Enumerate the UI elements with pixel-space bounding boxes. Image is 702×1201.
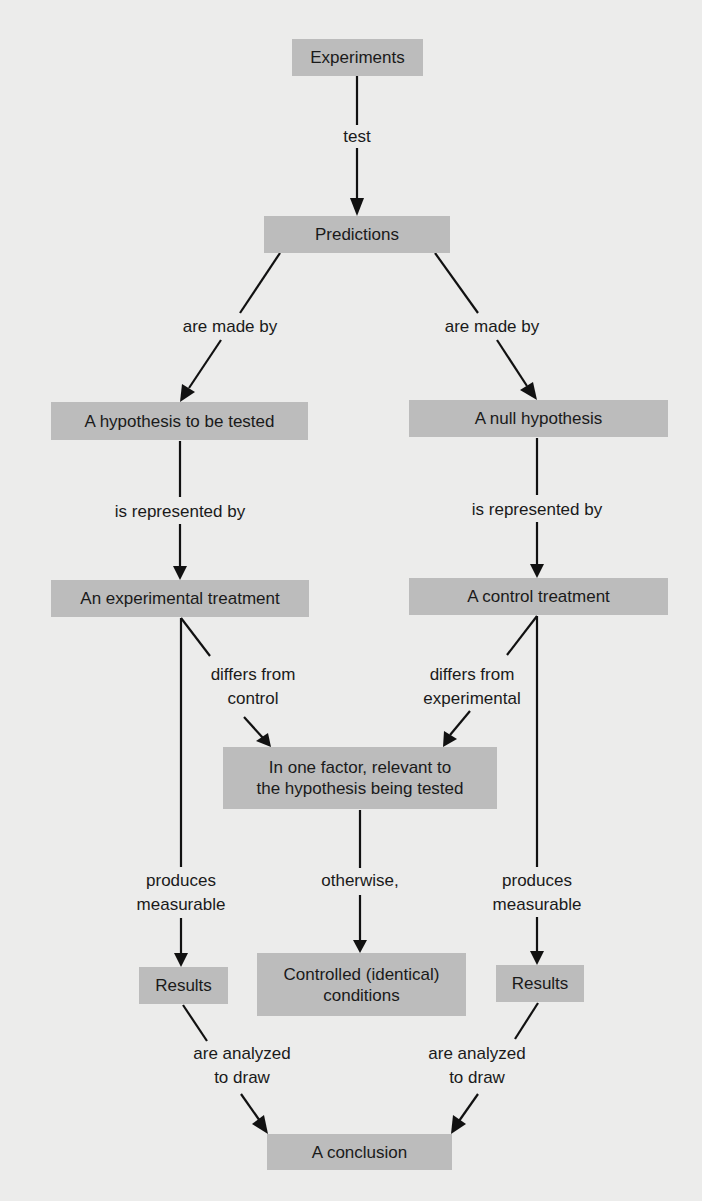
node-conclusion-label: A conclusion — [312, 1142, 407, 1163]
node-results-left-label: Results — [155, 975, 212, 996]
edge-label-produces-left-1: produces — [121, 870, 241, 891]
node-hypothesis-label: A hypothesis to be tested — [85, 411, 275, 432]
node-hypothesis: A hypothesis to be tested — [51, 402, 308, 440]
node-controlled-conditions: Controlled (identical) conditions — [257, 953, 466, 1016]
edge-label-analyzed-right-1: are analyzed — [407, 1043, 547, 1064]
node-experiments-label: Experiments — [310, 47, 404, 68]
edge-label-made-by-right: are made by — [412, 316, 572, 337]
node-one-factor: In one factor, relevant to the hypothesi… — [223, 747, 497, 809]
node-predictions: Predictions — [264, 216, 450, 253]
node-experimental-treatment-label: An experimental treatment — [80, 588, 279, 609]
node-conclusion: A conclusion — [267, 1134, 452, 1170]
node-null-hypothesis: A null hypothesis — [409, 400, 668, 437]
edge-label-differs-exp-2: experimental — [402, 688, 542, 709]
edge-label-represented-right: is represented by — [447, 499, 627, 520]
node-results-right: Results — [496, 965, 584, 1002]
edge-label-made-by-left: are made by — [150, 316, 310, 337]
edge-label-produces-left-2: measurable — [121, 894, 241, 915]
edge-label-analyzed-right-2: to draw — [407, 1067, 547, 1088]
node-controlled-line1: Controlled (identical) — [284, 964, 440, 985]
edge-label-test: test — [327, 126, 387, 147]
edge-label-analyzed-left-1: are analyzed — [172, 1043, 312, 1064]
edge-label-represented-left: is represented by — [90, 501, 270, 522]
edge-label-otherwise: otherwise, — [300, 870, 420, 891]
node-control-treatment-label: A control treatment — [467, 586, 610, 607]
edge-label-produces-right-1: produces — [477, 870, 597, 891]
node-experimental-treatment: An experimental treatment — [51, 580, 309, 617]
node-results-right-label: Results — [512, 973, 569, 994]
node-controlled-line2: conditions — [323, 985, 400, 1006]
node-control-treatment: A control treatment — [409, 578, 668, 615]
concept-map: Experiments Predictions A hypothesis to … — [0, 0, 702, 1201]
edge-label-differs-exp-1: differs from — [402, 664, 542, 685]
edge-label-analyzed-left-2: to draw — [172, 1067, 312, 1088]
edge-label-produces-right-2: measurable — [477, 894, 597, 915]
node-experiments: Experiments — [292, 39, 423, 76]
edge-label-differs-control-2: control — [183, 688, 323, 709]
node-one-factor-line1: In one factor, relevant to — [269, 757, 451, 778]
node-one-factor-line2: the hypothesis being tested — [257, 778, 464, 799]
node-predictions-label: Predictions — [315, 224, 399, 245]
edge-label-differs-control-1: differs from — [183, 664, 323, 685]
node-null-hypothesis-label: A null hypothesis — [475, 408, 603, 429]
node-results-left: Results — [139, 967, 228, 1004]
